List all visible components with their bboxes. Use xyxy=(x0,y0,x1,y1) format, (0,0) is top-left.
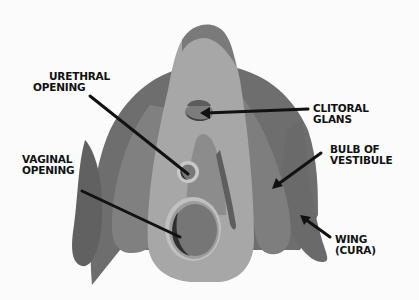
label-clitoral-glans: CLITORAL GLANS xyxy=(313,103,369,125)
vaginal-line2: OPENING xyxy=(22,165,75,176)
label-bulb-of-vestibule: BULB OF VESTIBULE xyxy=(330,144,393,166)
label-vaginal-opening: VAGINAL OPENING xyxy=(22,154,75,176)
wing-line2: (CURA) xyxy=(335,245,376,256)
label-wing-crura: WING (CURA) xyxy=(335,234,376,256)
label-urethral-opening: URETHRAL OPENING xyxy=(33,71,110,93)
urethral-line2: OPENING xyxy=(33,82,110,93)
bulb-line2: VESTIBULE xyxy=(330,155,393,166)
clitoral-line2: GLANS xyxy=(313,114,369,125)
